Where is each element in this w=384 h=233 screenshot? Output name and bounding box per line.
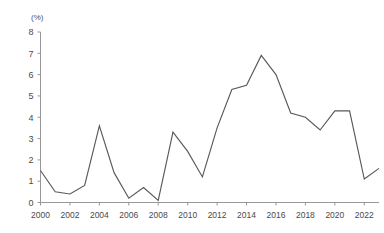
y-tick-label: 0	[28, 198, 33, 208]
chart-canvas: (%) 012345678 20002002200420062008201020…	[0, 0, 384, 233]
y-tick-label: 3	[28, 134, 33, 144]
y-axis-unit-label: (%)	[31, 13, 44, 22]
x-tick-label: 2004	[90, 210, 109, 220]
y-tick-label: 5	[28, 91, 33, 101]
y-tick-label: 4	[28, 113, 33, 123]
x-tick-label: 2010	[178, 210, 197, 220]
x-tick-label: 2016	[267, 210, 286, 220]
y-tick-label: 6	[28, 70, 33, 80]
y-tick-label: 7	[28, 49, 33, 59]
x-tick-label: 2006	[119, 210, 138, 220]
x-tick-label: 2012	[208, 210, 227, 220]
x-tick-label: 2014	[237, 210, 256, 220]
y-tick-label: 8	[28, 27, 33, 37]
x-tick-label: 2002	[60, 210, 79, 220]
x-tick-label: 2020	[325, 210, 344, 220]
plot-background	[0, 0, 384, 233]
line-chart: (%) 012345678 20002002200420062008201020…	[0, 0, 384, 233]
y-tick-label: 2	[28, 155, 33, 165]
x-tick-label: 2022	[355, 210, 374, 220]
x-tick-label: 2000	[31, 210, 50, 220]
y-tick-label: 1	[28, 176, 33, 186]
x-tick-label: 2018	[296, 210, 315, 220]
x-tick-label: 2008	[149, 210, 168, 220]
